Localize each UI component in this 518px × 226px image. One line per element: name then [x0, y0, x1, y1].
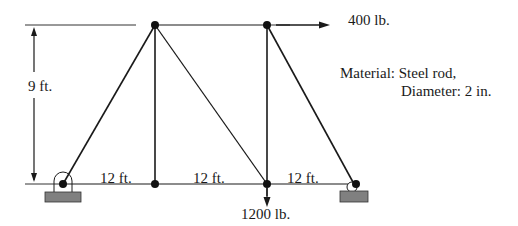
joint-icon — [151, 21, 159, 29]
span-label-3: 12 ft. — [287, 171, 319, 186]
joint-icon — [151, 180, 159, 188]
vertical-load-label: 1200 lb. — [241, 207, 290, 222]
joint-icon — [263, 21, 271, 29]
vertical-load-arrow-icon — [264, 188, 271, 207]
span-label-2: 12 ft. — [193, 171, 225, 186]
joint-icon — [59, 180, 67, 188]
joint-icon — [352, 180, 360, 188]
horizontal-load-label: 400 lb. — [348, 13, 390, 28]
height-dimension-arrow — [31, 27, 37, 182]
material-label: Material: Steel rod, — [340, 66, 456, 81]
truss-members — [63, 25, 354, 184]
truss-diagram — [0, 0, 518, 226]
horizontal-load-arrow-icon — [276, 22, 330, 29]
joint-icon — [263, 180, 271, 188]
right-diagonal — [267, 25, 354, 184]
height-dimension-label: 9 ft. — [28, 79, 52, 94]
middle-diagonal — [155, 25, 267, 184]
left-diagonal — [63, 25, 155, 184]
span-label-1: 12 ft. — [100, 171, 132, 186]
diameter-label: Diameter: 2 in. — [401, 84, 491, 99]
truss-joints — [59, 21, 360, 188]
